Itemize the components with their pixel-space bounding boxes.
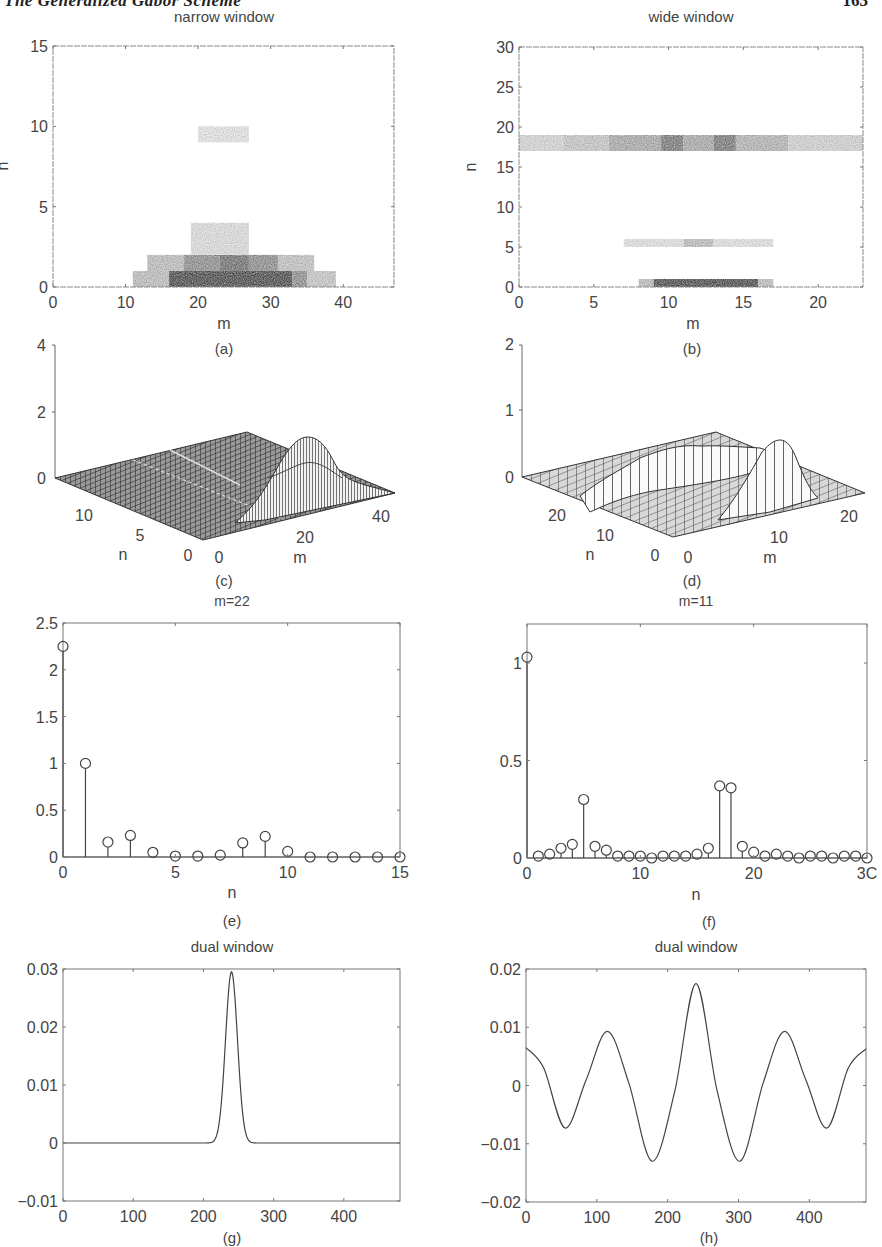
heatmap-cell [133,271,169,287]
z-tick-label: 2 [505,336,514,353]
y-tick-label: 20 [496,119,514,136]
x-tick-label: 400 [330,1208,357,1225]
y-tick-label: 0.01 [490,1019,521,1036]
stem-marker [193,851,203,861]
n-tick-label: 10 [75,507,93,524]
heatmap-cell [147,255,183,271]
panel-e-stems [58,641,405,862]
x-tick-label: 15 [391,864,409,881]
panel-f-xlabel: n [692,886,701,903]
stem-marker [783,851,793,861]
y-tick-label: 1 [513,655,522,672]
heatmap-cell [684,135,714,151]
panel-c-caption: (c) [215,572,233,589]
y-tick-label: 0 [512,1078,521,1095]
panel-h-title: dual window [655,938,738,955]
m-tick-label: 40 [372,508,390,525]
panel-a-ylabel: n [0,162,11,171]
x-tick-label: 5 [171,864,180,881]
y-tick-label: 25 [496,79,514,96]
heatmap-cell [220,255,249,271]
stem-marker [260,831,270,841]
stem-marker [533,851,543,861]
m-tick-label: 20 [840,508,858,525]
y-tick-label: 2.5 [36,615,58,632]
panel-b-frame [519,47,863,287]
panel-a-xlabel: m [217,315,230,332]
stem-marker [579,795,589,805]
stem-marker [715,781,725,791]
panel-c-zticks: 024 [37,337,46,487]
panel-e-caption: (e) [223,912,241,929]
stem-marker [805,851,815,861]
panel-e-xlabel: n [228,884,237,901]
y-tick-label: 5 [39,199,48,216]
panel-b-cells [519,135,863,287]
stem-marker [839,851,849,861]
y-tick-label: 0 [49,1135,58,1152]
stem-marker [681,851,691,861]
heatmap-cell [639,279,654,287]
x-tick-label: 100 [583,1209,610,1226]
m-tick-label: 0 [684,549,693,566]
x-tick-label: 30 [262,294,280,311]
x-tick-label: 20 [745,865,763,882]
m-tick-label: 10 [770,529,788,546]
n-tick-label: 10 [596,527,614,544]
panel-d: 012 01020 01020 n m (d) [505,336,865,589]
stem-marker [760,851,770,861]
panel-g-frame [63,969,400,1201]
panel-g-line [63,972,400,1143]
panel-c-mlabel: m [293,549,306,566]
heatmap-cell [609,135,661,151]
m-tick-label: 0 [215,549,224,566]
panel-e-title: m=22 [214,593,250,609]
stem-marker [817,851,827,861]
heatmap-cell [307,271,336,287]
n-tick-label: 0 [651,547,660,564]
y-tick-label: 0 [39,279,48,296]
heatmap-cell [736,135,788,151]
heatmap-cell [191,223,249,255]
panel-e-yticks: 00.511.522.5 [36,615,400,866]
heatmap-cell [198,126,249,142]
heatmap-cell [624,239,684,247]
stem-marker [238,838,248,848]
y-tick-label: −0.01 [18,1193,59,1210]
y-tick-label: 15 [496,159,514,176]
stem-marker [624,851,634,861]
panel-e-xticks: 051015 [59,623,409,881]
y-tick-label: 0 [513,850,522,867]
heatmap-cell [278,255,314,271]
x-tick-label: 400 [796,1209,823,1226]
y-tick-label: 1.5 [36,709,58,726]
panel-e-frame [63,623,400,857]
z-tick-label: 4 [37,337,46,354]
n-tick-label: 5 [136,527,145,544]
stem-marker [669,851,679,861]
y-tick-label: 5 [505,239,514,256]
panel-d-zticks: 012 [505,336,514,486]
y-tick-label: 10 [30,118,48,135]
y-tick-label: 10 [496,199,514,216]
panel-b-title: wide window [647,8,733,25]
heatmap-cell [684,239,714,247]
stem-marker [726,783,736,793]
panel-d-mlabel: m [763,549,776,566]
y-tick-label: 0.02 [27,1019,58,1036]
panel-d-nlabel: n [586,546,595,563]
panel-b-ylabel: n [462,163,479,172]
stem-marker [215,850,225,860]
heatmap-cell [184,255,220,271]
panel-e: m=22 051015 00.511.522.5 n (e) [36,593,409,929]
panel-b-yticks: 051015202530 [496,39,863,296]
panel-f-xticks: 010203C [523,624,878,882]
x-tick-label: 40 [334,294,352,311]
x-tick-label: 20 [809,294,827,311]
x-tick-label: 0 [522,1209,531,1226]
figure: narrow window 010203040 051015 m n (a) w… [0,0,882,1247]
stem-marker [125,830,135,840]
panel-h: dual window 0100200300400 −0.02−0.0100.0… [481,938,866,1246]
x-tick-label: 300 [725,1209,752,1226]
x-tick-label: 0 [515,294,524,311]
